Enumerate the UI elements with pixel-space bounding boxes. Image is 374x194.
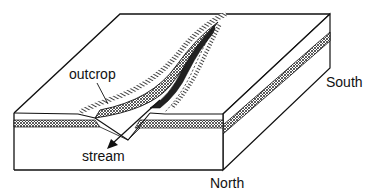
stream-label: stream [82,149,125,163]
north-label: North [210,176,244,190]
block-diagram [0,0,374,194]
south-label: South [326,75,363,89]
outcrop-label: outcrop [69,67,116,81]
